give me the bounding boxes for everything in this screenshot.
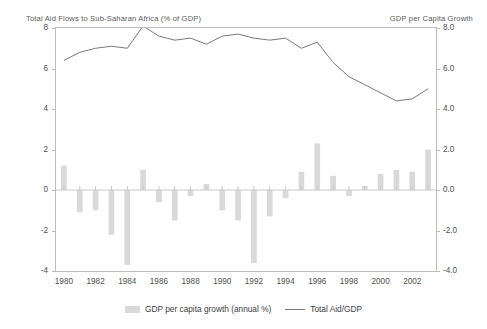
x-tick-2002: 2002	[403, 277, 421, 286]
y-tick-left--4: -4	[8, 266, 48, 275]
bar-1987	[172, 190, 178, 220]
x-tick-1996: 1996	[308, 277, 326, 286]
legend-item-line: Total Aid/GDP	[285, 304, 362, 314]
bar-1986	[156, 190, 162, 202]
legend-bar-swatch-icon	[125, 306, 140, 313]
y-tickmark-right-2	[437, 150, 440, 151]
bar-1988	[188, 190, 194, 196]
bar-2003	[425, 150, 431, 191]
chart-title-left: Total Aid Flows to Sub-Saharan Africa (%…	[26, 14, 201, 23]
bar-1981	[77, 190, 83, 212]
bar-1998	[346, 190, 352, 196]
y-tickmark-right--2	[437, 231, 440, 232]
legend-bar-label: GDP per capita growth (annual %)	[145, 304, 271, 314]
y-tick-left-6: 6	[8, 64, 48, 73]
x-tick-1988: 1988	[181, 277, 199, 286]
legend-line-swatch-icon	[285, 309, 305, 310]
y-tickmark-right-8	[437, 28, 440, 29]
y-tickmark-right--4	[437, 271, 440, 272]
x-tick-1994: 1994	[276, 277, 294, 286]
x-tick-1982: 1982	[86, 277, 104, 286]
x-tick-1990: 1990	[213, 277, 231, 286]
y-tickmark-left-2	[52, 150, 55, 151]
y-tick-left-2: 2	[8, 145, 48, 154]
bar-1990	[219, 190, 225, 210]
bar-1983	[109, 190, 115, 235]
y-tickmark-right-6	[437, 69, 440, 70]
axis-tickmarks	[64, 186, 428, 190]
y-tick-right-2.0: 2.0	[443, 145, 454, 154]
bar-1993	[267, 190, 273, 216]
y-tick-left-4: 4	[8, 104, 48, 113]
bar-1982	[93, 190, 99, 210]
legend-line-label: Total Aid/GDP	[310, 304, 362, 314]
x-tick-1984: 1984	[118, 277, 136, 286]
plot-graphics	[56, 28, 436, 271]
bar-1992	[251, 190, 257, 263]
y-tickmark-left--4	[52, 271, 55, 272]
y-tick-left--2: -2	[8, 226, 48, 235]
bar-1996	[314, 143, 320, 190]
total-aid-line	[64, 28, 428, 101]
x-tick-1998: 1998	[340, 277, 358, 286]
y-tickmark-left--2	[52, 231, 55, 232]
chart-title-right: GDP per Capita Growth	[390, 14, 473, 23]
bar-1984	[124, 190, 130, 265]
y-tickmark-right-0	[437, 190, 440, 191]
aid-flows-chart: Total Aid Flows to Sub-Saharan Africa (%…	[0, 0, 487, 329]
y-tick-right-8.0: 8.0	[443, 23, 454, 32]
x-tick-1986: 1986	[150, 277, 168, 286]
y-tick-right-4.0: 4.0	[443, 104, 454, 113]
y-tick-right--2.0: -2.0	[443, 226, 457, 235]
plot-area	[55, 27, 437, 272]
bar-1994	[283, 190, 289, 198]
y-tickmark-left-8	[52, 28, 55, 29]
y-tick-right--4.0: -4.0	[443, 266, 457, 275]
x-tick-1992: 1992	[245, 277, 263, 286]
legend-item-bar: GDP per capita growth (annual %)	[125, 304, 271, 314]
bar-1991	[235, 190, 241, 220]
x-tick-1980: 1980	[55, 277, 73, 286]
y-tickmark-left-0	[52, 190, 55, 191]
bars-group	[61, 143, 431, 264]
x-tick-2000: 2000	[371, 277, 389, 286]
chart-legend: GDP per capita growth (annual %) Total A…	[0, 304, 487, 314]
y-tick-right-6.0: 6.0	[443, 64, 454, 73]
y-tick-left-0: 0	[8, 185, 48, 194]
y-tickmark-right-4	[437, 109, 440, 110]
y-tickmark-left-6	[52, 69, 55, 70]
y-tickmark-left-4	[52, 109, 55, 110]
y-tick-right-0.0: 0.0	[443, 185, 454, 194]
y-tick-left-8: 8	[8, 23, 48, 32]
